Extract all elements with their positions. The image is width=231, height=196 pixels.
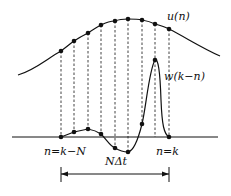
start-label: n=k−N bbox=[44, 146, 86, 157]
w-label: w(k−n) bbox=[164, 71, 205, 82]
span-label: NΔt bbox=[105, 156, 127, 167]
end-label: n=k bbox=[156, 146, 179, 157]
span-arrow bbox=[61, 167, 169, 182]
u-label: u(n) bbox=[167, 11, 190, 22]
u-curve bbox=[18, 19, 220, 75]
window-function-diagram: u(n) w(k−n) n=k−N n=k NΔt bbox=[0, 0, 231, 196]
